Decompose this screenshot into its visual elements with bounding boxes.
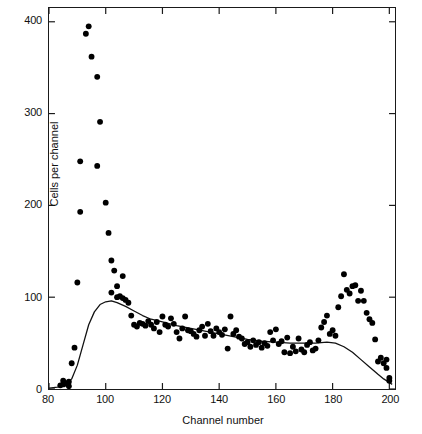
data-point xyxy=(313,346,319,352)
data-point xyxy=(378,355,384,361)
data-point xyxy=(225,346,231,352)
data-point xyxy=(293,348,299,354)
data-point xyxy=(352,282,358,288)
data-point xyxy=(94,163,100,169)
data-point xyxy=(239,336,245,342)
x-tick-label: 100 xyxy=(85,394,125,405)
y-tick-label: 300 xyxy=(2,107,42,118)
data-point xyxy=(72,345,78,351)
data-point xyxy=(384,365,390,371)
y-tick-label: 200 xyxy=(2,199,42,210)
data-point xyxy=(165,324,171,330)
data-point xyxy=(69,360,75,366)
data-point xyxy=(264,343,270,349)
data-point xyxy=(154,319,160,325)
data-point xyxy=(222,326,228,332)
data-point xyxy=(287,350,293,356)
data-point xyxy=(330,327,336,333)
data-point xyxy=(128,313,134,319)
data-point xyxy=(108,290,114,296)
data-point xyxy=(74,280,80,286)
data-point xyxy=(219,332,225,338)
data-point xyxy=(94,74,100,80)
data-point xyxy=(361,298,367,304)
data-point xyxy=(66,383,72,389)
data-point xyxy=(171,321,177,327)
y-tick-label: 400 xyxy=(2,15,42,26)
data-point xyxy=(233,327,239,333)
data-point xyxy=(333,333,339,339)
data-point xyxy=(228,314,234,320)
data-point xyxy=(77,158,83,164)
data-point xyxy=(211,333,217,339)
data-point xyxy=(386,375,392,381)
data-point xyxy=(284,335,290,341)
data-point xyxy=(114,283,120,289)
x-tick-label: 180 xyxy=(313,394,353,405)
data-point xyxy=(315,337,321,343)
fitted-curve xyxy=(49,301,392,388)
data-point xyxy=(247,344,253,350)
data-point xyxy=(202,333,208,339)
data-point xyxy=(335,304,341,310)
data-point xyxy=(151,325,157,331)
data-point xyxy=(372,336,378,342)
data-point xyxy=(86,23,92,29)
data-point xyxy=(177,336,183,342)
data-point xyxy=(174,329,180,335)
data-point xyxy=(355,298,361,304)
x-axis-title: Channel number xyxy=(128,414,318,426)
data-point xyxy=(194,334,200,340)
data-point xyxy=(120,273,126,279)
data-point xyxy=(108,258,114,264)
data-point xyxy=(125,300,131,306)
data-point xyxy=(341,271,347,277)
data-point xyxy=(281,349,287,355)
curve-path xyxy=(49,301,392,388)
data-point xyxy=(199,324,205,330)
data-point xyxy=(301,349,307,355)
data-point xyxy=(267,329,273,335)
plot-frame xyxy=(48,7,396,390)
data-point xyxy=(157,329,163,335)
x-tick-label: 160 xyxy=(256,394,296,405)
data-point xyxy=(296,336,302,342)
data-point xyxy=(103,200,109,206)
data-point xyxy=(89,54,95,60)
y-axis-title: Cells per channel xyxy=(48,104,60,224)
data-point xyxy=(205,321,211,327)
data-points xyxy=(57,23,392,389)
data-point xyxy=(347,291,353,297)
data-point xyxy=(106,230,112,236)
x-tick-label: 120 xyxy=(142,394,182,405)
data-point xyxy=(307,339,313,345)
data-point xyxy=(179,325,185,331)
data-point xyxy=(369,320,375,326)
data-point xyxy=(182,314,188,320)
data-point xyxy=(160,314,166,320)
x-tick-label: 200 xyxy=(370,394,410,405)
x-tick-label: 80 xyxy=(28,394,68,405)
plot-canvas xyxy=(49,8,395,389)
data-point xyxy=(83,31,89,37)
data-point xyxy=(270,337,276,343)
figure-container: 0100200300400 80100120140160180200 Cells… xyxy=(0,0,422,434)
data-point xyxy=(256,339,262,345)
x-tick-label: 140 xyxy=(199,394,239,405)
data-point xyxy=(384,357,390,363)
data-point xyxy=(168,315,174,321)
data-point xyxy=(324,313,330,319)
data-point xyxy=(77,209,83,215)
data-point xyxy=(338,293,344,299)
data-point xyxy=(97,119,103,125)
data-point xyxy=(273,326,279,332)
data-point xyxy=(364,310,370,316)
data-point xyxy=(318,325,324,331)
y-tick-label: 100 xyxy=(2,292,42,303)
data-point xyxy=(358,288,364,294)
data-point xyxy=(279,338,285,344)
data-point xyxy=(321,319,327,325)
data-point xyxy=(111,268,117,274)
